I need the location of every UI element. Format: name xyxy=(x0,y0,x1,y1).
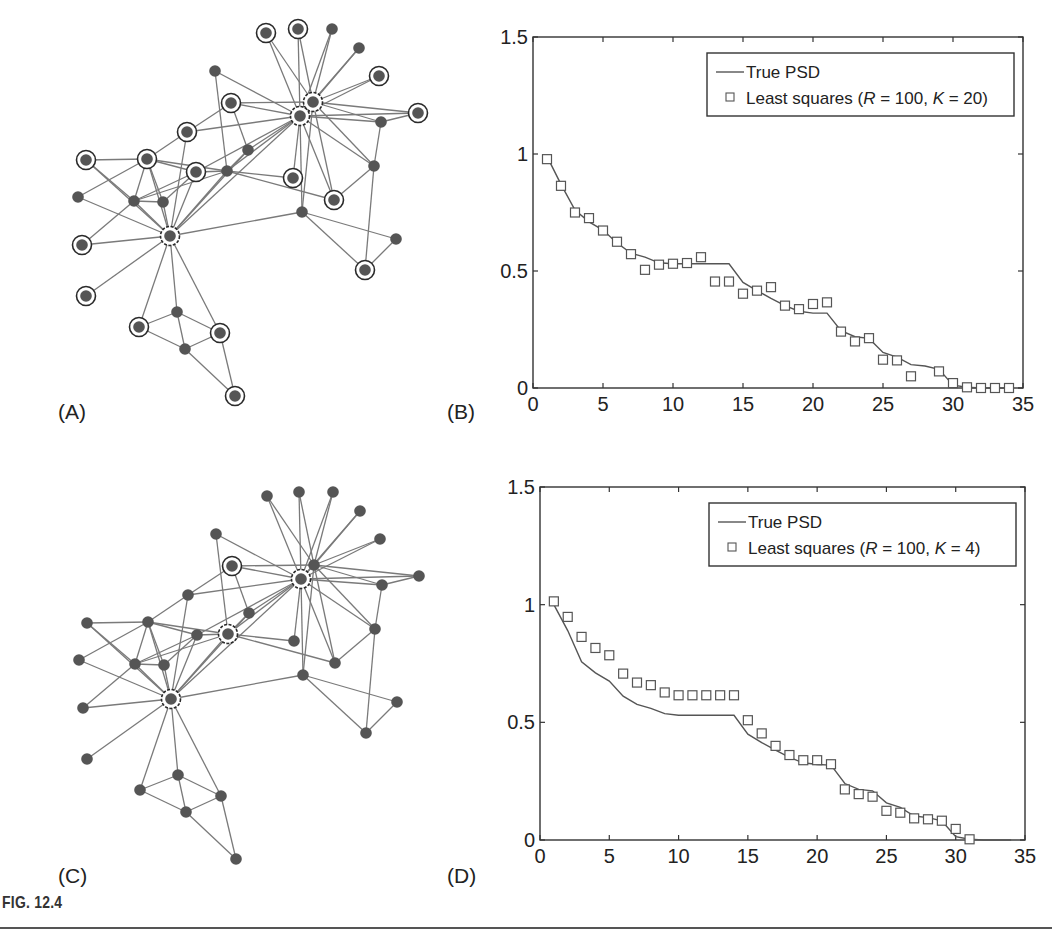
graph-node xyxy=(225,97,237,109)
x-tick-label: 15 xyxy=(732,393,754,415)
graph-node xyxy=(360,727,372,739)
x-tick-label: 35 xyxy=(1012,393,1034,415)
x-tick-label: 30 xyxy=(942,393,964,415)
graph-node xyxy=(128,195,140,207)
data-point xyxy=(577,632,586,641)
graph-node xyxy=(288,635,300,647)
data-point xyxy=(827,760,836,769)
legend-text-part: Least squares ( xyxy=(748,539,866,558)
graph-edge xyxy=(171,675,303,699)
data-point xyxy=(669,259,678,268)
graph-node xyxy=(292,23,304,35)
data-point xyxy=(674,691,683,700)
panel-label-C: (C) xyxy=(58,864,87,887)
data-point xyxy=(924,815,933,824)
graph-edge xyxy=(216,534,228,634)
graph-node xyxy=(157,196,169,208)
data-point xyxy=(781,301,790,310)
graph-edge xyxy=(83,664,135,708)
graph-node xyxy=(190,166,202,178)
graph-node xyxy=(164,230,176,242)
legend-label-least-squares: Least squares (R = 100, K = 20) xyxy=(746,89,988,108)
data-point xyxy=(977,384,986,393)
graph-node xyxy=(181,126,193,138)
graph-edge xyxy=(82,236,170,245)
graph-edge xyxy=(301,579,303,675)
graph-edge xyxy=(140,790,186,812)
panel-label-B: (B) xyxy=(447,400,475,423)
legend-text-part: K xyxy=(933,89,945,108)
graph-edge xyxy=(215,71,227,171)
graph-node xyxy=(221,165,233,177)
graph-edge xyxy=(86,236,170,296)
graph-node xyxy=(179,343,191,355)
data-point xyxy=(882,806,891,815)
graph-node xyxy=(391,696,403,708)
y-tick-label: 0 xyxy=(524,829,535,851)
data-point xyxy=(591,643,600,652)
data-point xyxy=(785,751,794,760)
data-point xyxy=(585,214,594,223)
data-point xyxy=(879,355,888,364)
legend-text-part: R xyxy=(863,89,875,108)
graph-edge xyxy=(186,812,236,859)
x-tick-label: 25 xyxy=(872,393,894,415)
graph-node xyxy=(134,784,146,796)
legend-label-true-psd: True PSD xyxy=(746,63,820,82)
legend-text-part: Least squares ( xyxy=(746,89,864,108)
graph-A xyxy=(72,20,427,406)
graph-edge xyxy=(170,212,302,236)
data-point xyxy=(688,691,697,700)
graph-node xyxy=(171,306,183,318)
graph-node xyxy=(242,144,254,156)
graph-node xyxy=(230,853,242,865)
legend-text-part: K xyxy=(935,539,947,558)
data-point xyxy=(837,327,846,336)
data-point xyxy=(907,372,916,381)
graph-node xyxy=(374,533,386,545)
data-point xyxy=(951,824,960,833)
graph-node xyxy=(328,194,340,206)
data-point xyxy=(854,790,863,799)
graph-node xyxy=(243,607,255,619)
y-tick-label: 1.5 xyxy=(500,26,528,48)
data-point xyxy=(571,208,580,217)
graph-node xyxy=(226,560,238,572)
data-point xyxy=(757,729,766,738)
x-tick-label: 5 xyxy=(604,845,615,867)
graph-node xyxy=(80,154,92,166)
x-tick-label: 0 xyxy=(527,393,538,415)
data-point xyxy=(865,334,874,343)
data-point xyxy=(557,181,566,190)
x-tick-label: 5 xyxy=(597,393,608,415)
x-tick-label: 30 xyxy=(945,845,967,867)
graph-edge xyxy=(139,236,170,327)
graph-node xyxy=(209,65,221,77)
data-point xyxy=(683,259,692,268)
data-point xyxy=(771,741,780,750)
data-point xyxy=(549,597,558,606)
data-point xyxy=(868,792,877,801)
graph-node xyxy=(260,27,272,39)
graph-node xyxy=(210,528,222,540)
data-point xyxy=(725,277,734,286)
data-point xyxy=(613,237,622,246)
data-point xyxy=(716,691,725,700)
graph-edge xyxy=(227,171,334,200)
graph-node xyxy=(165,693,177,705)
graph-edge xyxy=(231,102,313,103)
graph-edge xyxy=(178,775,221,796)
legend-marker-swatch xyxy=(728,543,736,551)
figure-12-4: 0510152025303500.511.5True PSDLeast squa… xyxy=(0,0,1052,936)
data-point xyxy=(935,367,944,376)
graph-node xyxy=(287,172,299,184)
legend-label-least-squares: Least squares (R = 100, K = 4) xyxy=(748,539,981,558)
graph-edge xyxy=(375,585,382,629)
graph-node xyxy=(293,486,305,498)
graph-node xyxy=(77,702,89,714)
graph-node xyxy=(133,321,145,333)
legend-text-part: = 100, xyxy=(877,539,934,558)
graph-node xyxy=(182,589,194,601)
graph-node xyxy=(129,658,141,670)
data-point xyxy=(641,265,650,274)
